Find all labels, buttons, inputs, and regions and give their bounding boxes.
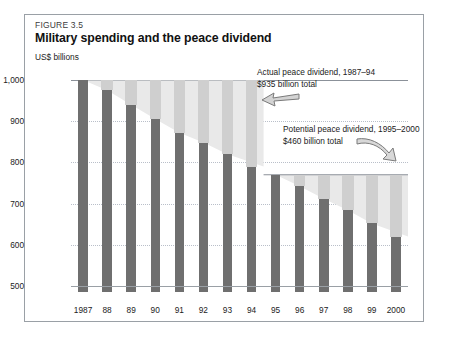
figure-title: Military spending and the peace dividend xyxy=(35,31,272,45)
bar-91 xyxy=(175,133,185,292)
x-tick-label-99: 99 xyxy=(360,305,384,315)
x-tick-label-2000: 2000 xyxy=(384,305,408,315)
dividend-band-91 xyxy=(174,80,186,133)
y-tick-label-900: 900 xyxy=(0,116,24,126)
dividend-band-96 xyxy=(294,175,306,187)
dividend-band-93 xyxy=(222,80,234,154)
x-tick-label-93: 93 xyxy=(215,305,239,315)
x-tick-label-94: 94 xyxy=(240,305,264,315)
y-axis-unit-label: US$ billions xyxy=(35,52,79,62)
figure-container: FIGURE 3.5 Military spending and the pea… xyxy=(24,14,424,322)
dividend-band-2000 xyxy=(390,175,402,237)
x-tick-label-97: 97 xyxy=(312,305,336,315)
bar-97 xyxy=(319,199,329,292)
x-tick-label-92: 92 xyxy=(191,305,215,315)
dividend-band-94 xyxy=(246,80,258,167)
x-tick-label-90: 90 xyxy=(143,305,167,315)
bar-95 xyxy=(271,175,281,292)
bar-96 xyxy=(295,186,305,292)
bar-88 xyxy=(102,90,112,292)
figure-number: FIGURE 3.5 xyxy=(35,20,83,30)
x-tick-label-98: 98 xyxy=(336,305,360,315)
y-tick-label-600: 600 xyxy=(0,240,24,250)
x-tick-label-96: 96 xyxy=(288,305,312,315)
dividend-band-97 xyxy=(318,175,330,199)
bar-89 xyxy=(126,105,136,292)
y-tick-label-500: 500 xyxy=(0,281,24,291)
dividend-band-89 xyxy=(125,80,137,105)
y-tick-label-800: 800 xyxy=(0,157,24,167)
dividend-band-98 xyxy=(342,175,354,210)
x-tick-label-91: 91 xyxy=(167,305,191,315)
bar-98 xyxy=(343,210,353,292)
chart-plot-area: 5006007008009001,000 1987888990919293949… xyxy=(71,80,408,302)
dividend-band-90 xyxy=(150,80,162,119)
arrow-right-down-icon xyxy=(355,135,399,163)
annotation-line-1: Actual peace dividend, 1987–94 xyxy=(257,67,375,79)
bar-92 xyxy=(199,143,209,292)
potential-peace-dividend-area xyxy=(264,175,408,237)
dividend-band-92 xyxy=(198,80,210,143)
wedge-svg xyxy=(71,80,408,292)
bar-2000 xyxy=(391,237,401,292)
arrow-left-icon xyxy=(261,91,301,109)
x-axis-line xyxy=(71,286,408,287)
annotation-line-2: $460 billion total xyxy=(283,136,420,148)
x-tick-label-89: 89 xyxy=(119,305,143,315)
bar-93 xyxy=(223,154,233,292)
x-tick-label-88: 88 xyxy=(95,305,119,315)
bar-90 xyxy=(151,119,161,292)
y-tick-label-700: 700 xyxy=(0,199,24,209)
x-tick-label-1987: 1987 xyxy=(71,305,95,315)
annotation-actual-peace-dividend: Actual peace dividend, 1987–94 $935 bill… xyxy=(257,67,375,90)
y-tick-label-1000: 1,000 xyxy=(0,75,24,85)
annotation-line-2: $935 billion total xyxy=(257,79,375,91)
dividend-band-99 xyxy=(366,175,378,224)
bar-1987 xyxy=(78,80,88,292)
bar-94 xyxy=(247,167,257,292)
x-tick-label-95: 95 xyxy=(264,305,288,315)
actual-peace-dividend-area xyxy=(71,80,264,167)
annotation-potential-peace-dividend: Potential peace dividend, 1995–2000 $460… xyxy=(283,124,420,147)
annotation-line-1: Potential peace dividend, 1995–2000 xyxy=(283,124,420,136)
dividend-band-88 xyxy=(101,80,113,90)
bar-99 xyxy=(367,223,377,292)
